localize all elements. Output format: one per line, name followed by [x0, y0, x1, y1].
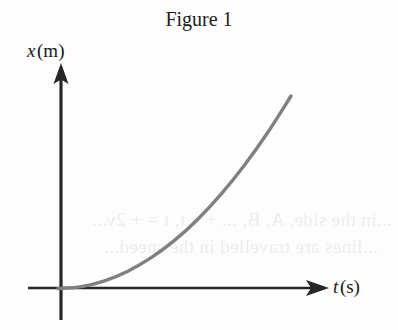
plot-area: [0, 0, 398, 330]
position-time-curve: [58, 96, 291, 289]
figure-container: ...in the side, A, B, ... + v t, t = + 2…: [0, 0, 398, 330]
